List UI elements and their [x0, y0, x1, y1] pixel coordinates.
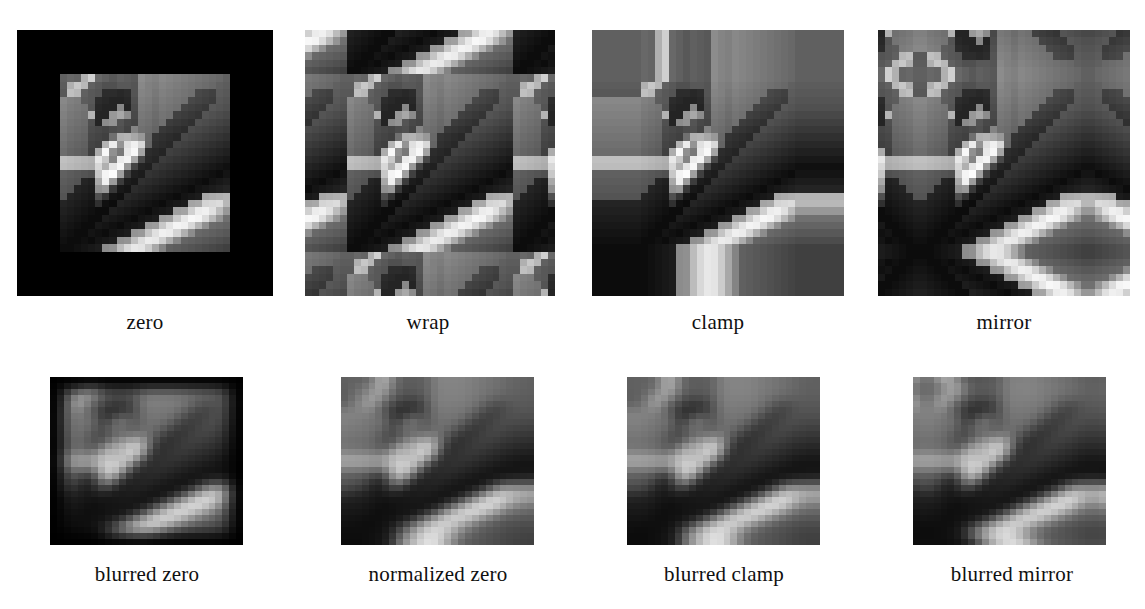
- panel-caption-mirror: mirror: [876, 310, 1132, 335]
- image-panel-blurred-clamp: [627, 377, 820, 545]
- image-panel-normalized-zero: [341, 377, 534, 545]
- image-panel-blurred-zero: [50, 377, 243, 545]
- image-panel-wrap: [305, 30, 555, 296]
- image-tile-blurred-zero: [50, 377, 243, 545]
- image-panel-blurred-mirror: [913, 377, 1106, 545]
- panel-caption-blurred-clamp: blurred clamp: [614, 562, 834, 587]
- image-tile-blurred-clamp: [627, 377, 820, 545]
- image-panel-mirror: [878, 30, 1130, 296]
- panel-caption-clamp: clamp: [590, 310, 846, 335]
- panel-caption-zero: zero: [17, 310, 273, 335]
- image-panel-clamp: [592, 30, 844, 296]
- panel-caption-blurred-mirror: blurred mirror: [900, 562, 1124, 587]
- figure-container: zerowrapclampmirrorblurred zeronormalize…: [0, 0, 1145, 609]
- panel-caption-blurred-zero: blurred zero: [44, 562, 250, 587]
- image-tile-wrap: [305, 30, 555, 296]
- image-panel-zero: [17, 30, 273, 296]
- image-tile-clamp: [592, 30, 844, 296]
- image-tile-zero: [17, 30, 273, 296]
- image-tile-mirror: [878, 30, 1130, 296]
- image-tile-blurred-mirror: [913, 377, 1106, 545]
- panel-caption-wrap: wrap: [300, 310, 556, 335]
- image-tile-normalized-zero: [341, 377, 534, 545]
- panel-caption-normalized-zero: normalized zero: [316, 562, 560, 587]
